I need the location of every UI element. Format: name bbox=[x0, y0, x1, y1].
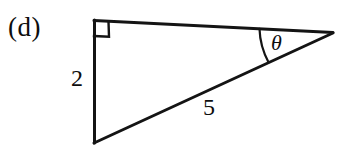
triangle-diagram-svg bbox=[0, 0, 337, 152]
figure-container: (d) 2 5 θ bbox=[0, 0, 337, 152]
vertical-leg-length-label: 2 bbox=[71, 66, 83, 90]
right-angle-marker-icon bbox=[94, 22, 109, 37]
part-label: (d) bbox=[8, 14, 41, 41]
hypotenuse-line bbox=[94, 33, 333, 143]
theta-angle-label: θ bbox=[271, 32, 282, 54]
hypotenuse-length-label: 5 bbox=[203, 95, 215, 119]
angle-arc-theta-icon bbox=[260, 29, 269, 62]
top-leg-line bbox=[94, 21, 333, 33]
